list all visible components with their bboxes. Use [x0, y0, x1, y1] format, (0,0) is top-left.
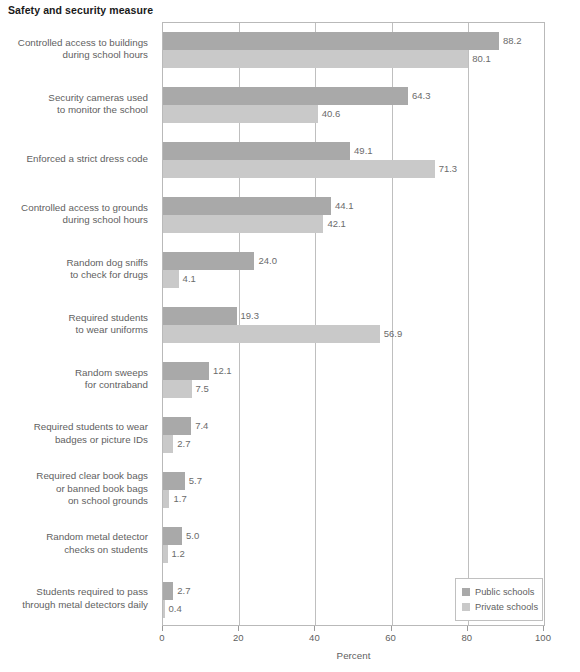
category-label: Controlled access to grounds during scho… [0, 202, 155, 227]
x-axis: Percent 020406080100 [162, 626, 545, 666]
category-label-column: Controlled access to buildings during sc… [0, 22, 155, 626]
bar-chart: Safety and security measure Controlled a… [0, 0, 580, 672]
legend-item: Private schools [462, 600, 536, 614]
bar-value-label: 2.7 [177, 435, 190, 453]
x-tick-label: 40 [309, 632, 320, 643]
bar-public [163, 197, 331, 215]
bar-value-label: 7.5 [196, 380, 209, 398]
bar-private [163, 50, 468, 68]
bar-value-label: 0.4 [169, 600, 182, 618]
bar-value-label: 24.0 [258, 252, 277, 270]
x-tick-label: 100 [535, 632, 551, 643]
bar-value-label: 19.3 [241, 307, 260, 325]
bar-value-label: 56.9 [384, 325, 403, 343]
bar-value-label: 1.7 [173, 490, 186, 508]
category-label: Students required to pass through metal … [0, 586, 155, 611]
bar-private [163, 490, 169, 508]
bar-value-label: 12.1 [213, 362, 232, 380]
bar-public [163, 417, 191, 435]
legend-swatch-private [462, 603, 470, 611]
bar-value-label: 64.3 [412, 87, 431, 105]
bar-value-label: 4.1 [183, 270, 196, 288]
x-tick [467, 626, 468, 631]
bar-private [163, 600, 165, 618]
bar-private [163, 270, 179, 288]
x-tick-label: 80 [462, 632, 473, 643]
bar-private [163, 380, 192, 398]
x-tick [314, 626, 315, 631]
bar-value-label: 42.1 [327, 215, 346, 233]
x-tick [391, 626, 392, 631]
bar-value-label: 49.1 [354, 142, 373, 160]
legend-label: Public schools [475, 587, 534, 597]
bar-public [163, 582, 173, 600]
bar-value-label: 80.1 [472, 50, 491, 68]
bar-value-label: 88.2 [503, 32, 522, 50]
bar-value-label: 5.0 [186, 527, 199, 545]
bar-value-label: 71.3 [439, 160, 458, 178]
bar-value-label: 40.6 [322, 105, 341, 123]
x-tick-label: 20 [233, 632, 244, 643]
gridline [392, 23, 393, 625]
legend-swatch-public [462, 588, 470, 596]
category-label: Random metal detector checks on students [0, 531, 155, 556]
bar-private [163, 325, 380, 343]
x-tick-label: 60 [385, 632, 396, 643]
category-label: Security cameras used to monitor the sch… [0, 92, 155, 117]
bar-public [163, 142, 350, 160]
bar-value-label: 2.7 [177, 582, 190, 600]
plot-area: 88.280.164.340.649.171.344.142.124.04.11… [162, 22, 545, 626]
bar-value-label: 1.2 [172, 545, 185, 563]
x-tick [543, 626, 544, 631]
category-label: Random sweeps for contraband [0, 367, 155, 392]
category-label: Required students to wear badges or pict… [0, 421, 155, 446]
x-tick [162, 626, 163, 631]
x-axis-title: Percent [162, 650, 545, 661]
bar-public [163, 362, 209, 380]
x-tick [238, 626, 239, 631]
category-label: Random dog sniffs to check for drugs [0, 257, 155, 282]
category-label: Enforced a strict dress code [0, 153, 155, 165]
chart-legend: Public schoolsPrivate schools [455, 578, 543, 621]
legend-item: Public schools [462, 585, 536, 599]
bar-private [163, 160, 435, 178]
x-tick-label: 0 [159, 632, 164, 643]
bar-public [163, 252, 254, 270]
legend-label: Private schools [475, 602, 538, 612]
category-label: Required clear book bags or banned book … [0, 470, 155, 507]
bar-public [163, 32, 499, 50]
bar-private [163, 215, 323, 233]
bar-value-label: 5.7 [189, 472, 202, 490]
bar-value-label: 7.4 [195, 417, 208, 435]
category-label: Required students to wear uniforms [0, 312, 155, 337]
bar-value-label: 44.1 [335, 197, 354, 215]
bar-private [163, 435, 173, 453]
bar-public [163, 307, 237, 325]
bar-private [163, 545, 168, 563]
bar-private [163, 105, 318, 123]
bar-public [163, 87, 408, 105]
gridline [468, 23, 469, 625]
category-label: Controlled access to buildings during sc… [0, 37, 155, 62]
chart-title: Safety and security measure [8, 4, 153, 16]
bar-public [163, 527, 182, 545]
bar-public [163, 472, 185, 490]
